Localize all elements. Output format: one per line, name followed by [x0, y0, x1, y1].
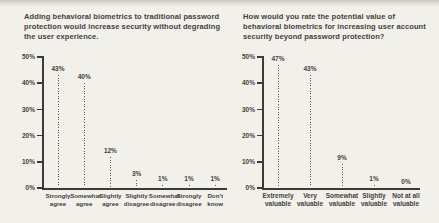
category-label: Somewhat agree [70, 192, 98, 207]
bar-dotted-line [84, 83, 85, 187]
bar-value-label: 1% [177, 175, 201, 182]
y-tick-label: 40% [13, 79, 35, 86]
y-tick-label: 50% [233, 53, 255, 60]
category-label: Strongly agree [44, 192, 72, 207]
bar-value-label: 47% [266, 55, 290, 62]
y-tick-label: 0% [13, 184, 35, 191]
bar-value-label: 1% [203, 175, 227, 182]
y-tick [257, 109, 262, 111]
y-tick [37, 135, 42, 137]
report-figure: Adding behavioral biometrics to traditio… [0, 0, 439, 223]
category-label: Strongly disagree [175, 192, 203, 207]
y-tick [37, 161, 42, 163]
y-tick-label: 10% [13, 158, 35, 165]
scan-edge-artifact [0, 0, 439, 7]
bar-value-label: 43% [298, 65, 322, 72]
y-axis [42, 56, 44, 188]
bar-value-label: 0% [394, 178, 418, 185]
y-tick [257, 56, 262, 58]
y-tick-label: 50% [13, 53, 35, 60]
y-tick-label: 0% [233, 184, 255, 191]
bar-value-label: 1% [151, 175, 175, 182]
y-tick-label: 20% [233, 132, 255, 139]
bar-dotted-line [278, 65, 279, 187]
category-label: Slightly disagree [123, 192, 151, 207]
y-tick [257, 82, 262, 84]
y-tick [37, 82, 42, 84]
bar-dotted-line [310, 75, 311, 187]
bar-value-label: 43% [46, 65, 70, 72]
y-tick-label: 30% [13, 106, 35, 113]
bar-dotted-line [342, 164, 343, 187]
x-axis-baseline [262, 188, 420, 190]
y-tick [37, 109, 42, 111]
y-tick [257, 187, 262, 189]
y-tick [257, 135, 262, 137]
y-tick [37, 187, 42, 189]
category-label: Not at all valuable [386, 192, 426, 207]
bar-value-label: 9% [330, 154, 354, 161]
bar-dotted-line [215, 185, 216, 187]
bar-value-label: 12% [98, 147, 122, 154]
category-label: Somewhat disagree [149, 192, 177, 207]
bar-dotted-line [58, 75, 59, 187]
y-axis [262, 56, 264, 188]
bar-value-label: 3% [125, 170, 149, 177]
bar-value-label: 1% [362, 175, 386, 182]
right-chart-title: How would you rate the potential value o… [243, 12, 435, 42]
bar-dotted-line [162, 185, 163, 187]
category-label: Slightly agree [96, 192, 124, 207]
bar-dotted-line [189, 185, 190, 187]
bar-dotted-line [374, 185, 375, 187]
y-tick-label: 20% [13, 132, 35, 139]
x-axis-baseline [42, 188, 227, 190]
category-label: Don't know [201, 192, 229, 207]
y-tick [37, 56, 42, 58]
bar-dotted-line [136, 180, 137, 187]
y-tick-label: 10% [233, 158, 255, 165]
bar-value-label: 40% [72, 73, 96, 80]
y-tick [257, 161, 262, 163]
left-chart-title: Adding behavioral biometrics to traditio… [24, 12, 224, 42]
y-tick-label: 30% [233, 106, 255, 113]
y-tick-label: 40% [233, 79, 255, 86]
bar-dotted-line [110, 157, 111, 187]
